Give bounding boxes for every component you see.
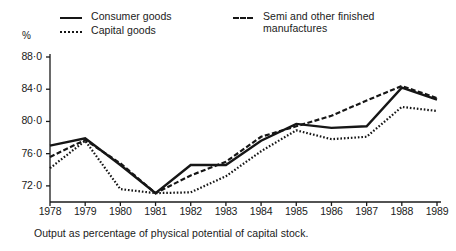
chart-axes bbox=[50, 54, 441, 202]
y-tick-label: 80·0 bbox=[8, 114, 42, 126]
y-tick-label: 88·0 bbox=[8, 50, 42, 62]
x-tick-label: 1982 bbox=[174, 205, 208, 217]
chart-caption: Output as percentage of physical potenti… bbox=[34, 227, 308, 239]
x-tick-label: 1986 bbox=[314, 205, 348, 217]
x-tick-label: 1989 bbox=[420, 205, 454, 217]
x-tick-label: 1984 bbox=[244, 205, 278, 217]
x-tick-label: 1988 bbox=[385, 205, 419, 217]
y-tick-label: 76·0 bbox=[8, 147, 42, 159]
x-tick-label: 1980 bbox=[103, 205, 137, 217]
x-tick-label: 1978 bbox=[33, 205, 67, 217]
y-tick-label: 84·0 bbox=[8, 82, 42, 94]
chart-figure: Consumer goods Capital goods Semi and ot… bbox=[0, 0, 456, 251]
x-tick-label: 1985 bbox=[279, 205, 313, 217]
x-tick-label: 1987 bbox=[350, 205, 384, 217]
x-tick-label: 1981 bbox=[139, 205, 173, 217]
x-tick-label: 1983 bbox=[209, 205, 243, 217]
series-line-consumer-goods bbox=[50, 88, 437, 194]
y-tick-label: 72·0 bbox=[8, 179, 42, 191]
series-line-semi-and-other-finished-manufactures bbox=[50, 86, 437, 193]
x-tick-label: 1979 bbox=[68, 205, 102, 217]
